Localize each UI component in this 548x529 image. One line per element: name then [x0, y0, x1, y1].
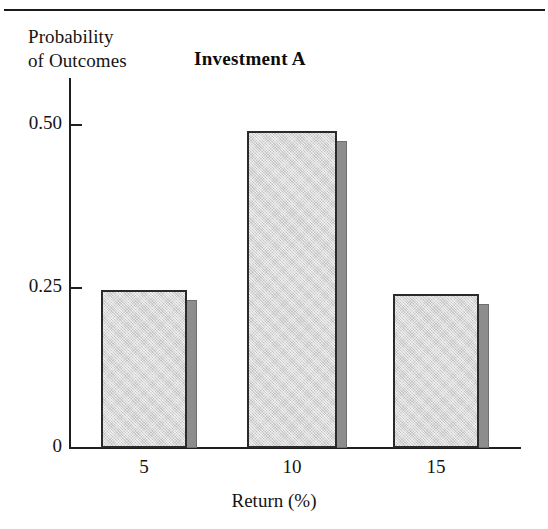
x-tick-label-5: 5 — [104, 456, 184, 478]
x-axis-title: Return (%) — [0, 490, 548, 512]
x-tick-label-10: 10 — [252, 456, 332, 478]
chart-title: Investment A — [194, 48, 306, 70]
bar-10[interactable] — [247, 131, 337, 448]
bar-chart-figure: Probability of Outcomes Investment A 0.5… — [0, 0, 548, 529]
y-tick-label-050: 0.50 — [29, 112, 62, 134]
y-tick-label-025: 0.25 — [29, 275, 62, 297]
bar-15[interactable] — [393, 294, 479, 448]
y-tick-mark-050 — [71, 124, 82, 126]
y-axis-line — [69, 78, 71, 449]
page-top-rule — [4, 9, 545, 11]
bar-5[interactable] — [101, 290, 187, 448]
y-tick-mark-025 — [71, 287, 82, 289]
x-tick-label-15: 15 — [396, 456, 476, 478]
y-tick-label-0: 0 — [53, 435, 63, 457]
y-axis-title: Probability of Outcomes — [28, 25, 127, 73]
